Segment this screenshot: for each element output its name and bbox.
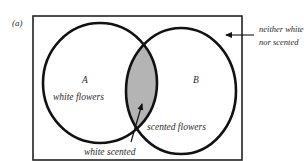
set-a-description: white flowers: [53, 92, 104, 102]
set-b-description: scented flowers: [147, 122, 206, 132]
panel-label: (a): [12, 18, 23, 28]
set-b-letter: B: [193, 75, 199, 85]
intersection-description: white scented: [84, 147, 136, 157]
venn-diagram: (a) A white flowers B scented flowers wh…: [0, 0, 304, 161]
outside-description-line2: nor scented: [259, 37, 299, 47]
outside-description-line1: neither white: [259, 24, 304, 34]
set-a-letter: A: [81, 75, 88, 85]
